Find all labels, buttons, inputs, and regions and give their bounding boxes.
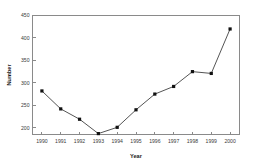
plot-frame	[33, 16, 240, 135]
data-point	[172, 85, 175, 88]
x-axis-tick-labels: 1990199119921993199419951996199719981999…	[36, 138, 236, 144]
data-point	[210, 72, 213, 75]
x-tick-label: 1996	[149, 138, 160, 144]
data-point	[97, 132, 100, 135]
x-tick-label: 2000	[224, 138, 235, 144]
x-tick-label: 1998	[187, 138, 198, 144]
data-point	[228, 27, 231, 30]
data-point-markers	[40, 27, 231, 135]
y-tick-label: 350	[21, 57, 30, 63]
y-tick-label: 400	[21, 35, 30, 41]
x-tick-label: 1999	[206, 138, 217, 144]
data-point	[116, 126, 119, 129]
x-tick-label: 1994	[112, 138, 123, 144]
y-axis-tick-labels: 200250300350400450	[21, 12, 30, 130]
x-tick-label: 1995	[130, 138, 141, 144]
y-tick-label: 250	[21, 102, 30, 108]
plot-border	[33, 16, 240, 135]
data-point	[134, 108, 137, 111]
data-point	[78, 118, 81, 121]
data-point	[153, 92, 156, 95]
line-chart: 200250300350400450 199019911992199319941…	[0, 0, 263, 161]
data-point	[40, 89, 43, 92]
x-tick-label: 1997	[168, 138, 179, 144]
x-axis-title: Year	[130, 153, 143, 159]
x-tick-label: 1990	[36, 138, 47, 144]
y-tick-label: 300	[21, 80, 30, 86]
y-axis-title: Number	[6, 64, 12, 86]
x-tick-label: 1993	[93, 138, 104, 144]
data-point	[191, 70, 194, 73]
y-tick-label: 450	[21, 12, 30, 18]
chart-canvas: 200250300350400450 199019911992199319941…	[0, 0, 263, 161]
data-series-line	[42, 29, 230, 134]
y-tick-label: 200	[21, 125, 30, 131]
data-point	[59, 107, 62, 110]
x-tick-label: 1991	[55, 138, 66, 144]
x-tick-label: 1992	[74, 138, 85, 144]
